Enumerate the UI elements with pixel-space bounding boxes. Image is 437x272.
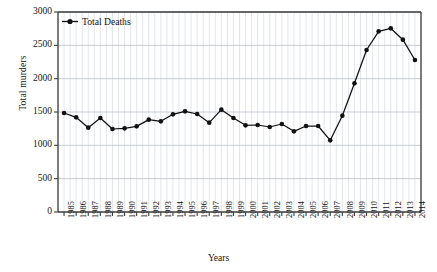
x-tick-label: 2004 <box>297 201 306 218</box>
x-tick-label: 1986 <box>79 201 88 218</box>
x-tick-label: 2005 <box>309 201 318 218</box>
x-tick-label: 1985 <box>67 201 76 218</box>
x-tick-label: 2006 <box>321 201 330 218</box>
y-tick-label: 500 <box>12 173 52 183</box>
x-tick-label: 1990 <box>128 201 137 218</box>
y-tick-label: 3000 <box>12 6 52 16</box>
data-point <box>219 107 224 112</box>
data-point <box>340 113 345 118</box>
x-tick-label: 2012 <box>394 201 403 218</box>
data-point <box>304 124 309 129</box>
x-tick-label: 1987 <box>91 201 100 218</box>
data-point <box>207 120 212 125</box>
data-point <box>195 112 200 117</box>
data-point <box>146 117 151 122</box>
data-point <box>280 122 285 127</box>
data-point <box>352 81 357 86</box>
data-point <box>328 138 333 143</box>
x-tick-label: 1991 <box>140 201 149 218</box>
x-tick-label: 2007 <box>333 201 342 218</box>
x-tick-label: 1993 <box>164 201 173 218</box>
y-tick-label: 0 <box>12 206 52 216</box>
x-tick-label: 1988 <box>104 201 113 218</box>
data-point <box>231 116 236 121</box>
y-tick-label: 1000 <box>12 139 52 149</box>
x-tick-label: 1994 <box>176 201 185 218</box>
data-point <box>267 125 272 130</box>
legend-entry-total-deaths: Total Deaths <box>82 16 131 27</box>
x-tick-label: 2003 <box>285 201 294 218</box>
data-point <box>316 124 321 129</box>
legend-marker-icon <box>67 19 72 24</box>
data-point <box>183 109 188 114</box>
data-point <box>86 125 91 130</box>
chart-figure: Total murders Years 05001000150020002500… <box>0 0 437 272</box>
data-point <box>255 123 260 128</box>
data-point <box>62 111 67 116</box>
data-point <box>74 115 79 120</box>
data-point <box>243 123 248 128</box>
x-tick-label: 1992 <box>152 201 161 218</box>
data-point <box>364 48 369 53</box>
data-point <box>292 129 297 134</box>
x-tick-label: 2001 <box>261 201 270 218</box>
x-tick-label: 1989 <box>116 201 125 218</box>
data-point <box>413 58 418 63</box>
x-tick-label: 1995 <box>188 201 197 218</box>
x-tick-label: 1997 <box>212 201 221 218</box>
x-tick-label: 1999 <box>237 201 246 218</box>
data-point <box>171 112 176 117</box>
x-tick-label: 1998 <box>225 201 234 218</box>
x-tick-label: 2008 <box>346 201 355 218</box>
x-tick-label: 2013 <box>406 201 415 218</box>
data-point <box>122 126 127 131</box>
x-tick-label: 2000 <box>249 201 258 218</box>
y-tick-label: 2500 <box>12 39 52 49</box>
x-tick-label: 2002 <box>273 201 282 218</box>
y-tick-label: 2000 <box>12 73 52 83</box>
x-tick-label: 1996 <box>200 201 209 218</box>
data-point <box>388 26 393 31</box>
x-tick-label: 2014 <box>418 201 427 218</box>
x-tick-label: 2009 <box>358 201 367 218</box>
data-point <box>376 29 381 34</box>
data-point <box>110 127 115 132</box>
line-chart-plot <box>0 0 437 272</box>
y-tick-label: 1500 <box>12 106 52 116</box>
x-tick-label: 2011 <box>382 201 391 218</box>
data-point <box>98 116 103 121</box>
x-tick-label: 2010 <box>370 201 379 218</box>
data-point <box>159 119 164 124</box>
data-point <box>401 37 406 42</box>
data-point <box>134 124 139 129</box>
